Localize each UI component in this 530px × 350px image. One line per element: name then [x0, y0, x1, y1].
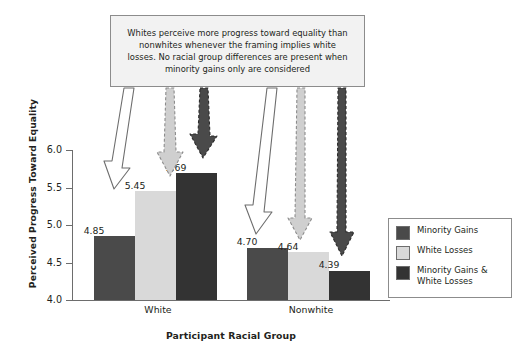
- bar-white-minority-gains[interactable]: [94, 236, 135, 300]
- legend: Minority Gains White Losses Minority Gai…: [388, 218, 512, 298]
- y-tick-label-5-0: 5.0: [22, 219, 62, 230]
- legend-item-white-losses[interactable]: White Losses: [396, 245, 504, 260]
- legend-label-both: Minority Gains & White Losses: [417, 265, 488, 286]
- bar-value-white-white-losses: 5.45: [115, 180, 155, 191]
- y-tick-label-4-5: 4.5: [22, 257, 62, 268]
- y-tick-label-6-0: 6.0: [22, 144, 62, 155]
- bar-value-white-both: 5.69: [156, 162, 196, 173]
- bar-nonwhite-both[interactable]: [329, 271, 370, 300]
- plot-area: [72, 150, 390, 300]
- bar-value-nonwhite-white-losses: 4.64: [268, 241, 308, 252]
- bar-white-white-losses[interactable]: [135, 191, 176, 300]
- legend-item-minority-gains[interactable]: Minority Gains: [396, 225, 504, 240]
- x-group-label-nonwhite: Nonwhite: [266, 304, 356, 315]
- x-axis-line: [72, 300, 390, 301]
- legend-label-minority-gains: Minority Gains: [417, 225, 478, 236]
- bar-nonwhite-minority-gains[interactable]: [247, 248, 288, 301]
- x-group-label-white: White: [113, 304, 203, 315]
- legend-swatch-minority-gains: [396, 226, 410, 240]
- annotation-callout: Whites perceive more progress toward equ…: [110, 15, 365, 87]
- y-tick-label-4-0: 4.0: [22, 294, 62, 305]
- arrow-white-both: [190, 88, 217, 158]
- y-tick-mark-4-0: [66, 300, 73, 301]
- bar-value-nonwhite-both: 4.39: [309, 259, 349, 270]
- figure-bar-chart: Whites perceive more progress toward equ…: [0, 0, 530, 350]
- x-axis-title: Participant Racial Group: [72, 330, 390, 341]
- y-tick-label-5-5: 5.5: [22, 182, 62, 193]
- bar-value-white-minority-gains: 4.85: [74, 225, 114, 236]
- bar-white-both[interactable]: [176, 173, 217, 300]
- legend-swatch-white-losses: [396, 246, 410, 260]
- legend-swatch-both: [396, 266, 410, 280]
- legend-label-white-losses: White Losses: [417, 245, 473, 256]
- annotation-callout-text: Whites perceive more progress toward equ…: [127, 27, 347, 76]
- legend-item-both[interactable]: Minority Gains & White Losses: [396, 265, 504, 286]
- bar-value-nonwhite-minority-gains: 4.70: [227, 236, 267, 247]
